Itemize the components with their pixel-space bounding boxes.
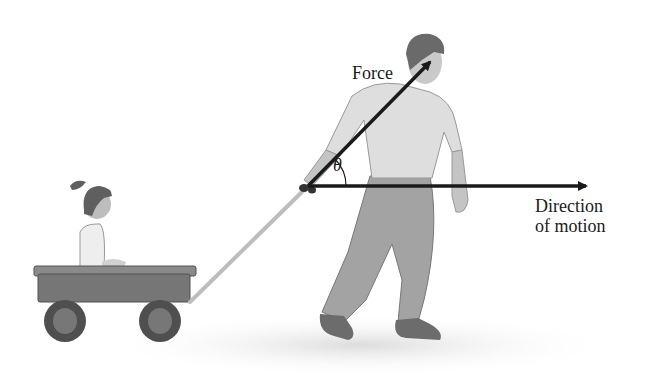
wagon-force-diagram bbox=[0, 0, 653, 385]
direction-of-motion-label: Direction of motion bbox=[535, 196, 606, 236]
wagon-wheel-rear bbox=[44, 300, 86, 342]
direction-label-line1: Direction bbox=[535, 196, 606, 216]
angle-theta-label: θ bbox=[333, 155, 342, 175]
wagon-handle bbox=[190, 188, 306, 302]
force-label: Force bbox=[352, 63, 393, 83]
direction-label-line2: of motion bbox=[535, 216, 606, 236]
wagon-wheel-front bbox=[139, 300, 181, 342]
girl bbox=[70, 181, 126, 268]
